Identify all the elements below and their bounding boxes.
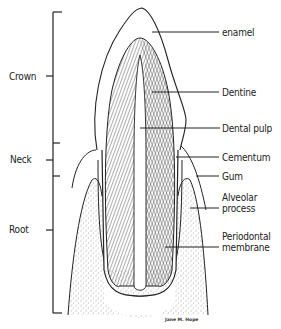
tooth-diagram bbox=[0, 0, 281, 329]
label-periodontal-line1: Periodontal bbox=[222, 231, 271, 242]
label-gum: Gum bbox=[222, 171, 243, 182]
dental-pulp bbox=[134, 55, 146, 290]
label-alveolar-line2: process bbox=[222, 203, 257, 214]
region-label-root: Root bbox=[9, 224, 29, 235]
artist-signature: Jane M. Hope bbox=[165, 317, 198, 322]
label-dentine: Dentine bbox=[222, 87, 256, 98]
label-dental-pulp: Dental pulp bbox=[222, 123, 272, 134]
region-label-crown: Crown bbox=[9, 71, 36, 82]
label-periodontal-membrane: Periodontal membrane bbox=[222, 231, 271, 253]
label-periodontal-line2: membrane bbox=[222, 242, 271, 253]
label-alveolar-line1: Alveolar bbox=[222, 192, 257, 203]
label-cementum: Cementum bbox=[222, 152, 270, 163]
label-enamel: enamel bbox=[222, 27, 254, 38]
region-label-neck: Neck bbox=[10, 154, 32, 165]
label-alveolar-process: Alveolar process bbox=[222, 192, 257, 214]
region-bracket bbox=[46, 12, 62, 313]
